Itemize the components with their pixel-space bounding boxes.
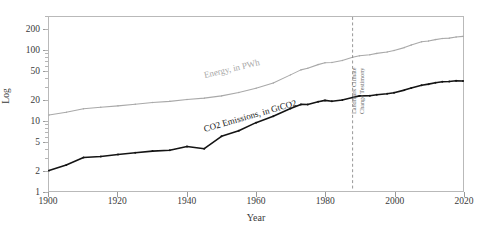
y-tick-label: 5 [35, 137, 40, 147]
data-point [421, 84, 423, 86]
data-point [273, 82, 274, 83]
x-tick-label: 1940 [177, 196, 196, 206]
data-point [455, 36, 456, 37]
data-point [307, 104, 309, 106]
data-point [369, 95, 371, 97]
data-point [203, 148, 205, 150]
data-point [317, 101, 319, 103]
data-point [100, 106, 101, 107]
data-point [48, 170, 50, 172]
data-point [255, 88, 256, 89]
data-point [290, 74, 291, 75]
data-point [169, 149, 171, 151]
data-point [324, 62, 325, 63]
series-line-co2 [49, 81, 463, 171]
data-point [117, 105, 118, 106]
data-point [376, 53, 377, 54]
annotation-line-2: Change Testimony [358, 67, 366, 114]
data-point [65, 164, 67, 166]
data-point [272, 115, 274, 117]
data-point [435, 39, 436, 40]
data-point [410, 87, 412, 89]
y-tick-label: 100 [26, 45, 40, 55]
data-point [428, 40, 429, 41]
data-point [403, 89, 405, 91]
x-tick-label: 1920 [108, 196, 127, 206]
data-point [359, 55, 360, 56]
data-point [386, 51, 387, 52]
data-point [448, 81, 450, 83]
data-point [369, 54, 370, 55]
data-point [134, 152, 136, 154]
data-point [135, 103, 136, 104]
data-point [434, 82, 436, 84]
data-point [117, 154, 119, 156]
data-point [331, 62, 332, 63]
x-tick-label: 2000 [385, 196, 404, 206]
x-tick-label: 1900 [39, 196, 58, 206]
data-point [221, 95, 222, 96]
data-point [83, 156, 85, 158]
data-point [238, 92, 239, 93]
y-tick-label: 2 [35, 166, 40, 176]
series-line-energy [49, 36, 463, 115]
y-tick-label: 200 [26, 24, 40, 34]
data-point [83, 108, 84, 109]
data-point [441, 81, 443, 83]
data-point [307, 67, 308, 68]
data-point [342, 60, 343, 61]
data-point [376, 94, 378, 96]
data-point [462, 80, 464, 82]
data-point [300, 103, 302, 105]
x-tick-label: 1960 [247, 196, 266, 206]
annotation-line-1: Landmark Climate [350, 67, 358, 114]
data-point [442, 38, 443, 39]
data-point [300, 69, 301, 70]
plot-frame [48, 16, 464, 192]
data-point [393, 92, 395, 94]
chart-root: Log Year 1251020501002001900192019401960… [0, 0, 489, 252]
data-point [186, 99, 187, 100]
data-point [152, 102, 153, 103]
plot-area [49, 17, 463, 191]
data-point [186, 146, 188, 148]
data-point [324, 99, 326, 101]
data-point [448, 37, 449, 38]
data-point [404, 47, 405, 48]
data-point [152, 150, 154, 152]
data-point [317, 64, 318, 65]
data-point [455, 80, 457, 82]
y-tick-label: 50 [31, 66, 41, 76]
data-point [100, 155, 102, 157]
data-point [331, 100, 333, 102]
y-tick-label: 10 [31, 116, 41, 126]
data-point [48, 114, 49, 115]
data-point [204, 97, 205, 98]
data-point [169, 101, 170, 102]
data-point [421, 41, 422, 42]
x-tick-label: 2020 [455, 196, 474, 206]
data-point [66, 112, 67, 113]
data-point [238, 130, 240, 132]
series-group [48, 36, 464, 172]
data-point [255, 122, 257, 124]
x-tick-label: 1980 [316, 196, 335, 206]
data-point [462, 36, 463, 37]
data-point [221, 135, 223, 137]
data-point [386, 93, 388, 95]
data-point [393, 50, 394, 51]
annotation-label: Landmark Climate Change Testimony [350, 67, 366, 114]
y-tick-label: 20 [31, 95, 41, 105]
data-point [428, 83, 430, 85]
data-point [341, 99, 343, 101]
data-point [411, 44, 412, 45]
